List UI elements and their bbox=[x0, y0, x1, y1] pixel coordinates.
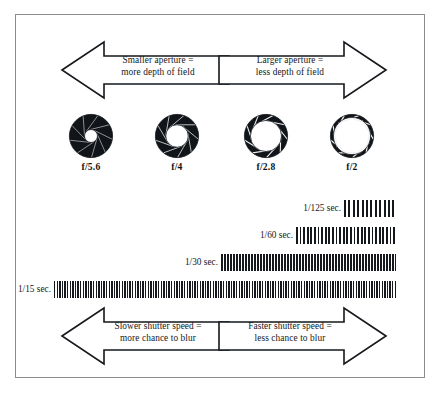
faster-shutter-line2: less chance to blur bbox=[218, 333, 362, 345]
aperture-iris-icon bbox=[68, 113, 114, 159]
aperture-f-2: f/2 bbox=[309, 113, 395, 172]
shutter-row: 1/30 sec. bbox=[185, 251, 396, 273]
aperture-icon-row: f/5.6f/4f/2.8f/2 bbox=[16, 113, 424, 185]
shutter-blur-bar bbox=[296, 227, 396, 244]
shutter-row: 1/125 sec. bbox=[303, 197, 396, 219]
shutter-speed-group: 1/125 sec.1/60 sec.1/30 sec.1/15 sec. bbox=[16, 197, 424, 305]
shutter-blur-bar bbox=[221, 254, 396, 271]
aperture-iris-icon bbox=[154, 113, 200, 159]
aperture-label: f/5.6 bbox=[48, 161, 134, 172]
shutter-speed-label: 1/125 sec. bbox=[303, 203, 341, 213]
larger-aperture-arrow: Larger aperture = less depth of field bbox=[218, 39, 388, 101]
shutter-blur-bar bbox=[54, 281, 396, 298]
faster-shutter-line1: Faster shutter speed = bbox=[218, 321, 362, 333]
smaller-aperture-line2: more depth of field bbox=[86, 67, 230, 79]
aperture-label: f/4 bbox=[134, 161, 220, 172]
diagram-frame: Smaller aperture = more depth of field L… bbox=[15, 14, 425, 378]
larger-aperture-line2: less depth of field bbox=[218, 67, 362, 79]
aperture-f-4: f/4 bbox=[134, 113, 220, 172]
slower-shutter-line2: more chance to blur bbox=[86, 333, 230, 345]
faster-shutter-arrow: Faster shutter speed = less chance to bl… bbox=[218, 305, 388, 367]
aperture-arrow-row: Smaller aperture = more depth of field L… bbox=[16, 39, 424, 101]
smaller-aperture-text: Smaller aperture = more depth of field bbox=[60, 55, 230, 78]
faster-shutter-text: Faster shutter speed = less chance to bl… bbox=[218, 321, 388, 344]
aperture-iris-icon bbox=[329, 113, 375, 159]
aperture-iris-icon bbox=[243, 113, 289, 159]
slower-shutter-arrow: Slower shutter speed = more chance to bl… bbox=[60, 305, 230, 367]
larger-aperture-line1: Larger aperture = bbox=[218, 55, 362, 67]
shutter-arrow-row: Slower shutter speed = more chance to bl… bbox=[16, 305, 424, 367]
shutter-speed-label: 1/60 sec. bbox=[260, 230, 293, 240]
aperture-f-2-8: f/2.8 bbox=[223, 113, 309, 172]
smaller-aperture-arrow: Smaller aperture = more depth of field bbox=[60, 39, 230, 101]
aperture-label: f/2.8 bbox=[223, 161, 309, 172]
aperture-f-5-6: f/5.6 bbox=[48, 113, 134, 172]
shutter-speed-label: 1/30 sec. bbox=[185, 257, 218, 267]
shutter-row: 1/15 sec. bbox=[18, 278, 396, 300]
shutter-row: 1/60 sec. bbox=[260, 224, 396, 246]
smaller-aperture-line1: Smaller aperture = bbox=[86, 55, 230, 67]
shutter-blur-bar bbox=[344, 200, 396, 217]
larger-aperture-text: Larger aperture = less depth of field bbox=[218, 55, 388, 78]
aperture-label: f/2 bbox=[309, 161, 395, 172]
slower-shutter-text: Slower shutter speed = more chance to bl… bbox=[60, 321, 230, 344]
slower-shutter-line1: Slower shutter speed = bbox=[86, 321, 230, 333]
shutter-speed-label: 1/15 sec. bbox=[18, 284, 51, 294]
